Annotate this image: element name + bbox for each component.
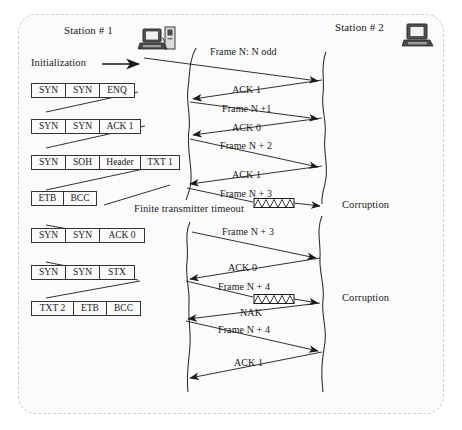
corruption-symbol-2 [254,295,294,304]
pdu-cell: SYN [32,156,66,169]
timeout-label: Finite transmitter timeout [134,204,244,215]
pdu-cell: SYN [32,120,66,133]
pdu-cell: SYN [32,266,66,279]
pdu-cell: TXT 2 [32,302,74,315]
pdu-cell: SOH [66,156,100,169]
arrow-msg-1 [144,58,318,81]
message-label-6: ACK 1 [232,170,261,180]
pdu-cell: TXT 1 [141,156,179,169]
pdu-cell: SYN [66,266,100,279]
message-label-11: NAK [240,308,262,318]
diagram-page: Station # 1 Station # 2 Initialization F… [0,0,462,430]
pdu-box-7: TXT 2 ETB BCC [31,301,141,316]
pdu-cell: SYN [66,229,100,242]
pdu-cell: ACK 0 [100,229,144,242]
pdu-cell: ENQ [100,84,134,97]
message-label-8: Frame N + 3 [222,227,274,237]
corruption-symbol-1 [254,199,294,208]
pdu-box-4: ETB BCC [31,191,97,206]
arrow-msg-10-post [294,299,318,303]
initialization-label: Initialization [31,58,86,69]
pdu-cell: ETB [32,192,64,205]
station1-label: Station # 1 [64,25,113,36]
corruption-label-2: Corruption [342,293,389,304]
pdu-box-2: SYN SYN ACK 1 [31,119,141,134]
message-label-7: Frame N + 3 [220,189,272,199]
station1-timeline-lower [187,222,191,392]
station1-computer-icon [138,26,178,58]
pdu-cell: SYN [66,120,100,133]
arrow-msg-7-post [294,203,320,206]
pdu-box-3: SYN SOH Header TXT 1 [31,155,180,170]
pdu-box-1: SYN SYN ENQ [31,83,135,98]
pdu-cell: SYN [32,229,66,242]
message-label-13: ACK 1 [234,358,263,368]
station2-timeline [319,52,326,392]
pdu-cell: ETB [74,302,107,315]
message-label-9: ACK 0 [228,263,257,273]
pdu-cell: BCC [64,192,96,205]
corruption-label-1: Corruption [342,200,389,211]
station2-computer-icon [402,22,434,54]
message-label-12: Frame N + 4 [218,325,270,335]
pdu-cell: SYN [32,84,66,97]
message-label-5: Frame N + 2 [220,141,272,151]
pdu-cell: SYN [66,84,100,97]
pdu-box-5: SYN SYN ACK 0 [31,228,145,243]
message-label-10: Frame N + 4 [218,282,270,292]
message-label-2: ACK 1 [232,85,261,95]
pdu-cell: Header [100,156,141,169]
station2-label: Station # 2 [335,22,384,33]
message-label-4: ACK 0 [232,123,261,133]
message-label-1: Frame N: N odd [210,47,277,57]
pdu-cell: ACK 1 [100,120,140,133]
message-label-3: Frame N +1 [222,104,271,114]
pdu-cell: BCC [107,302,140,315]
pdu-box-6: SYN SYN STX [31,265,135,280]
station1-timeline-upper [186,48,196,200]
pdu-cell: STX [100,266,134,279]
